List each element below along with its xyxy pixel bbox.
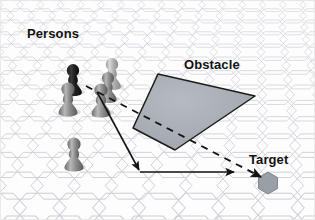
- label-target: Target: [249, 153, 288, 166]
- label-persons: Persons: [27, 27, 79, 40]
- label-obstacle: Obstacle: [184, 58, 240, 71]
- scene-canvas: Persons Obstacle Target: [0, 0, 315, 220]
